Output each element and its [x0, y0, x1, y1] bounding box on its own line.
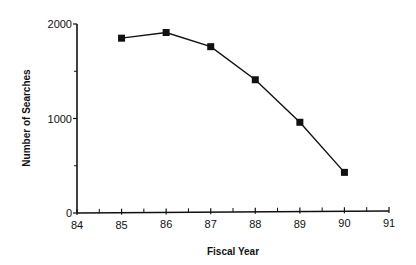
x-tick-label: 90 — [338, 217, 350, 229]
x-tick-label: 87 — [205, 218, 217, 230]
line-chart: 0100020008485868788899091 Fiscal Year Nu… — [0, 0, 416, 265]
x-tick-label: 85 — [115, 219, 127, 231]
x-tick-label: 86 — [160, 218, 172, 230]
y-tick-label: 1000 — [48, 113, 72, 125]
square-marker — [163, 29, 170, 36]
square-marker — [118, 35, 125, 42]
square-marker — [252, 76, 259, 83]
x-tick-label: 89 — [294, 218, 306, 230]
x-axis-title: Fiscal Year — [207, 246, 259, 257]
square-marker — [341, 169, 348, 176]
data-series — [118, 29, 348, 176]
y-tick-label: 0 — [66, 207, 72, 219]
series-line — [122, 33, 345, 173]
ticks: 0100020008485868788899091 — [48, 18, 396, 231]
x-tick-label: 84 — [71, 219, 83, 231]
y-axis-title: Number of Searches — [21, 69, 32, 167]
square-marker — [296, 119, 303, 126]
square-marker — [207, 43, 214, 50]
x-tick-label: 88 — [249, 218, 261, 230]
y-tick-label: 2000 — [48, 18, 72, 30]
axes — [77, 24, 389, 213]
x-tick-label: 91 — [383, 217, 395, 229]
